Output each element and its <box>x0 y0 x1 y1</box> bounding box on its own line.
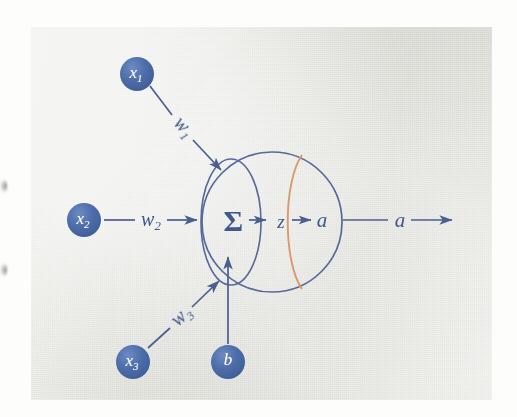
weight-2-label: w2 <box>141 209 161 233</box>
pre-activation-label: z <box>277 212 284 231</box>
input-node-3-label: x3 <box>125 352 138 372</box>
activation-label: a <box>317 210 328 231</box>
input-node-2-label: x2 <box>76 210 89 230</box>
input-node-1-label: x1 <box>129 64 142 84</box>
edge-weight3-to-neuron <box>192 281 219 307</box>
figure-canvas: x1 x2 x3 b w1 w2 w3 Σ z a a <box>0 0 517 417</box>
edge-input3-to-weight <box>148 328 170 348</box>
edge-input1-to-neuron <box>150 86 172 115</box>
bias-node-label: b <box>224 351 233 371</box>
summation-symbol: Σ <box>223 206 242 236</box>
activation-boundary-arc <box>288 155 302 289</box>
edge-input1-to-neuron-arrow <box>193 140 221 170</box>
output-activation-label: a <box>395 210 406 231</box>
